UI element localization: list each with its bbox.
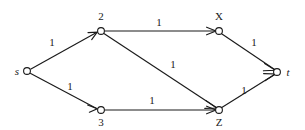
edge-X-t-arrowhead — [263, 64, 275, 71]
edge-s-2-arrowhead — [88, 32, 97, 39]
node-Z-circle[interactable] — [216, 107, 223, 114]
edge-s-2-line — [31, 33, 97, 70]
node-t-circle[interactable] — [274, 69, 281, 76]
edge-weight-x-t: 1 — [251, 36, 257, 48]
edge-weight-s-3: 1 — [67, 80, 73, 92]
edge-weight-s-2: 1 — [49, 36, 55, 48]
edge-Z-t-arrowhead — [264, 74, 276, 81]
edge-s-2 — [31, 32, 98, 69]
edge-s-3-line — [30, 73, 96, 108]
node-s-circle[interactable] — [24, 68, 31, 75]
node-X-circle[interactable] — [216, 28, 223, 35]
edge-3-Z — [105, 106, 216, 114]
edge-weight-3-z: 1 — [149, 94, 155, 106]
node-3-circle[interactable] — [98, 107, 105, 114]
node-label-t: t — [286, 66, 290, 78]
edge-weight-2-z: 1 — [170, 58, 176, 70]
flow-network-diagram: s 2 3 X Z t 1 1 1 1 1 1 1 — [0, 0, 305, 130]
graph-canvas: s 2 3 X Z t 1 1 1 1 1 1 1 — [0, 0, 305, 130]
edge-X-t — [222, 34, 276, 71]
edge-weight-2-x: 1 — [156, 16, 162, 28]
node-label-s: s — [15, 65, 19, 77]
node-label-3: 3 — [98, 116, 104, 128]
edge-2-Z-line — [104, 34, 216, 108]
node-label-2: 2 — [98, 10, 104, 22]
edge-2-X — [105, 27, 216, 35]
edge-weight-z-t: 1 — [241, 84, 247, 96]
edge-2-Z — [104, 34, 217, 109]
edge-s-3 — [30, 73, 97, 112]
edge-Z-t — [222, 74, 276, 108]
node-label-z: Z — [216, 116, 223, 128]
edge-weight-group: 1 1 1 1 1 1 1 — [49, 16, 257, 106]
node-label-x: X — [215, 10, 223, 22]
node-2-circle[interactable] — [98, 28, 105, 35]
